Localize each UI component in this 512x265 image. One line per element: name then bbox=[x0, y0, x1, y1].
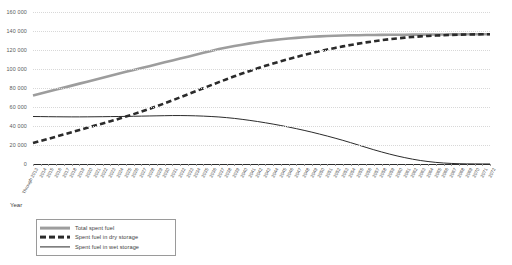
gridline bbox=[33, 88, 490, 89]
x-axis-tick-mark bbox=[118, 164, 119, 166]
x-axis-tick-mark bbox=[366, 164, 367, 166]
x-axis-tick-mark bbox=[382, 164, 383, 166]
gridline bbox=[33, 126, 490, 127]
x-axis-tick-mark bbox=[72, 164, 73, 166]
legend-swatch-dry-icon bbox=[40, 233, 70, 242]
x-axis-tick-label: 2031 bbox=[170, 167, 179, 178]
x-axis-tick-mark bbox=[397, 164, 398, 166]
x-axis-tick-mark bbox=[157, 164, 158, 166]
legend-item-wet: Spent fuel in wet storage bbox=[40, 242, 171, 252]
y-axis-tick-label: 120 000 bbox=[6, 47, 27, 53]
x-axis-tick-mark bbox=[459, 164, 460, 166]
x-axis-tick-mark bbox=[33, 164, 34, 166]
x-axis-tick-mark bbox=[203, 164, 204, 166]
x-axis-tick-mark bbox=[64, 164, 65, 166]
x-axis-tick-mark bbox=[413, 164, 414, 166]
x-axis-tick-mark bbox=[196, 164, 197, 166]
x-axis-tick-mark bbox=[103, 164, 104, 166]
x-axis-title: Year bbox=[10, 202, 22, 208]
x-axis-tick-mark bbox=[242, 164, 243, 166]
x-axis-tick-mark bbox=[172, 164, 173, 166]
y-axis-tick-label: 100 000 bbox=[6, 66, 27, 72]
x-axis-tick-mark bbox=[374, 164, 375, 166]
x-axis-tick-mark bbox=[95, 164, 96, 166]
x-axis-tick-mark bbox=[250, 164, 251, 166]
x-axis-tick-mark bbox=[358, 164, 359, 166]
x-axis-tick-mark bbox=[490, 164, 491, 166]
x-axis-tick-mark bbox=[180, 164, 181, 166]
x-axis-tick-mark bbox=[126, 164, 127, 166]
x-axis-tick-mark bbox=[289, 164, 290, 166]
y-axis-tick-label: 160 000 bbox=[6, 9, 27, 15]
x-axis-tick-mark bbox=[234, 164, 235, 166]
x-axis-tick-mark bbox=[389, 164, 390, 166]
x-axis-tick-mark bbox=[467, 164, 468, 166]
y-axis-tick-label: 20 000 bbox=[10, 142, 27, 148]
x-axis-tick-mark bbox=[351, 164, 352, 166]
x-axis-tick-mark bbox=[227, 164, 228, 166]
x-axis-tick-label: Through 2013 bbox=[22, 167, 40, 195]
x-axis-tick-mark bbox=[451, 164, 452, 166]
x-axis-tick-mark bbox=[444, 164, 445, 166]
legend-label-total: Total spent fuel bbox=[75, 225, 114, 231]
legend: Total spent fuel Spent fuel in dry stora… bbox=[36, 219, 176, 256]
x-axis-tick-mark bbox=[165, 164, 166, 166]
legend-item-total: Total spent fuel bbox=[40, 223, 171, 233]
x-axis-tick-mark bbox=[79, 164, 80, 166]
x-axis-tick-mark bbox=[110, 164, 111, 166]
x-axis-tick-label: 2019 bbox=[77, 167, 86, 178]
gridline bbox=[33, 31, 490, 32]
x-axis-tick-mark bbox=[273, 164, 274, 166]
x-axis-tick-mark bbox=[87, 164, 88, 166]
x-axis-tick-mark bbox=[420, 164, 421, 166]
y-axis: 020 00040 00060 00080 000100 000120 0001… bbox=[0, 12, 31, 164]
x-axis-tick-mark bbox=[149, 164, 150, 166]
x-axis-line bbox=[33, 164, 490, 165]
legend-swatch-total-icon bbox=[40, 223, 70, 232]
plot-area bbox=[33, 12, 490, 164]
x-axis-labels: Through 20132014201520162017201820192020… bbox=[33, 166, 490, 196]
x-axis-tick-mark bbox=[56, 164, 57, 166]
x-axis-tick-mark bbox=[41, 164, 42, 166]
gridline bbox=[33, 69, 490, 70]
x-axis-tick-mark bbox=[327, 164, 328, 166]
legend-label-dry: Spent fuel in dry storage bbox=[75, 234, 138, 240]
x-axis-tick-mark bbox=[335, 164, 336, 166]
legend-item-dry: Spent fuel in dry storage bbox=[40, 233, 171, 243]
x-axis-tick-mark bbox=[320, 164, 321, 166]
x-axis-tick-mark bbox=[428, 164, 429, 166]
x-axis-tick-mark bbox=[141, 164, 142, 166]
x-axis-tick-mark bbox=[134, 164, 135, 166]
gridline bbox=[33, 12, 490, 13]
x-axis-tick-mark bbox=[436, 164, 437, 166]
y-axis-tick-label: 80 000 bbox=[10, 85, 27, 91]
x-axis-tick-mark bbox=[211, 164, 212, 166]
x-axis-tick-mark bbox=[188, 164, 189, 166]
x-axis-tick-mark bbox=[405, 164, 406, 166]
x-axis-tick-mark bbox=[343, 164, 344, 166]
x-axis-tick-mark bbox=[475, 164, 476, 166]
y-axis-tick-label: 140 000 bbox=[6, 28, 27, 34]
x-axis-tick-label: 2023 bbox=[108, 167, 117, 178]
chart-container: 020 00040 00060 00080 000100 000120 0001… bbox=[0, 0, 512, 265]
x-axis-tick-mark bbox=[48, 164, 49, 166]
x-axis-tick-mark bbox=[219, 164, 220, 166]
x-axis-tick-label: 2027 bbox=[139, 167, 148, 178]
legend-swatch-wet-icon bbox=[40, 242, 70, 251]
x-axis-tick-mark bbox=[258, 164, 259, 166]
x-axis-tick-mark bbox=[265, 164, 266, 166]
y-axis-tick-label: 0 bbox=[24, 161, 27, 167]
x-axis-tick-mark bbox=[281, 164, 282, 166]
x-axis-tick-mark bbox=[304, 164, 305, 166]
x-axis-tick-mark bbox=[312, 164, 313, 166]
y-axis-tick-label: 60 000 bbox=[10, 104, 27, 110]
x-axis-tick-mark bbox=[482, 164, 483, 166]
gridline bbox=[33, 50, 490, 51]
gridline bbox=[33, 107, 490, 108]
series-line bbox=[33, 34, 490, 95]
legend-label-wet: Spent fuel in wet storage bbox=[75, 244, 139, 250]
y-axis-tick-label: 40 000 bbox=[10, 123, 27, 129]
x-axis-tick-mark bbox=[296, 164, 297, 166]
gridline bbox=[33, 145, 490, 146]
